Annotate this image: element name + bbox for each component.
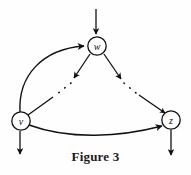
edge-w-to-v-dots [57,83,71,94]
node-w-label: w [94,41,101,52]
edge-w-to-v-stub [74,54,90,78]
figure-caption: Figure 3 [0,149,191,165]
edge-w-to-z-stub [104,54,121,79]
figure-container: w v z Figure 3 [0,0,191,175]
edge-v-to-z [29,125,162,135]
edge-w-to-z-tail [139,95,165,113]
node-v-label: v [19,116,24,127]
node-z-label: z [168,115,173,126]
edge-v-to-w [20,46,84,112]
edge-w-to-z-dots [124,83,136,93]
edge-w-to-v-tail [28,97,53,115]
